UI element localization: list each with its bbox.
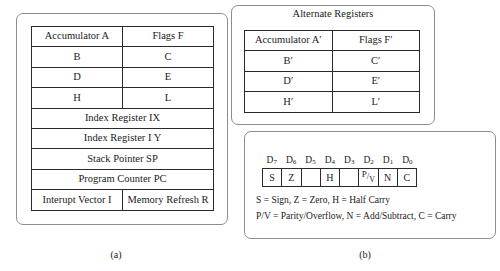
table-row: H L	[32, 88, 214, 108]
parity-overflow-denominator: V	[369, 175, 375, 184]
bit-label-d6: D6	[281, 156, 300, 166]
flag-cell-carry: C	[397, 169, 416, 187]
bit-label-d1-index: 1	[390, 158, 394, 166]
register-cell-flags-f: Flags F	[123, 27, 214, 47]
flag-bit-table-body: S Z H P/V N C	[263, 169, 417, 187]
table-row: Stack Pointer SP	[32, 149, 214, 169]
bit-label-d4-index: 4	[332, 158, 336, 166]
register-cell-accumulator-a: Accumulator A	[32, 27, 123, 47]
flag-cell-unused-d5	[301, 169, 320, 187]
bit-label-d1-letter: D	[383, 155, 390, 165]
bit-label-d2-index: 2	[370, 158, 374, 166]
register-cell-l-prime: L′	[332, 92, 420, 112]
bit-label-d3: D3	[340, 156, 359, 166]
caption-b: (b)	[345, 250, 385, 260]
table-row: Accumulator A′ Flags F′	[245, 31, 420, 51]
bit-label-d7-index: 7	[273, 158, 277, 166]
register-cell-e: E	[123, 67, 214, 87]
flag-cell-add-subtract: N	[378, 169, 397, 187]
register-cell-index-register-ix: Index Register IX	[32, 108, 214, 128]
bit-label-d0-letter: D	[402, 155, 409, 165]
table-row: S Z H P/V N C	[263, 169, 417, 187]
main-register-table-body: Accumulator A Flags F B C D E H L Index …	[32, 27, 214, 211]
bit-label-d2: D2	[359, 156, 378, 166]
alternate-register-table: Accumulator A′ Flags F′ B′ C′ D′ E′ H′ L…	[244, 30, 420, 113]
register-cell-c-prime: C′	[332, 51, 420, 71]
register-cell-flags-f-prime: Flags F′	[332, 31, 420, 51]
parity-overflow-glyph: P/V	[362, 170, 375, 184]
bit-label-d6-index: 6	[293, 158, 297, 166]
bit-label-d0: D0	[398, 156, 417, 166]
flag-legend-line-1: S = Sign, Z = Zero, H = Half Carry	[256, 196, 390, 206]
flag-cell-unused-d3	[340, 169, 359, 187]
bit-label-d6-letter: D	[286, 155, 293, 165]
register-cell-b-prime: B′	[245, 51, 333, 71]
register-cell-d: D	[32, 67, 123, 87]
register-cell-accumulator-a-prime: Accumulator A′	[245, 31, 333, 51]
flag-cell-parity-overflow: P/V	[359, 169, 378, 187]
bit-label-d1: D1	[378, 156, 397, 166]
register-cell-index-register-iy: Index Register I Y	[32, 128, 214, 148]
table-row: D′ E′	[245, 71, 420, 91]
table-row: B C	[32, 47, 214, 67]
table-row: Index Register I Y	[32, 128, 214, 148]
register-cell-program-counter-pc: Program Counter PC	[32, 169, 214, 189]
flag-legend-line-2: P/V = Parity/Overflow, N = Add/Subtract,…	[256, 212, 457, 222]
alternate-register-table-body: Accumulator A′ Flags F′ B′ C′ D′ E′ H′ L…	[245, 31, 420, 113]
bit-label-d0-index: 0	[409, 158, 413, 166]
flag-register-diagram: D7 D6 D5 D4 D3 D2 D1 D0 S Z H P/V N C	[262, 156, 417, 187]
alternate-registers-title: Alternate Registers	[231, 9, 435, 20]
register-cell-h-prime: H′	[245, 92, 333, 112]
table-row: H′ L′	[245, 92, 420, 112]
register-cell-stack-pointer-sp: Stack Pointer SP	[32, 149, 214, 169]
bit-label-d5-index: 5	[312, 158, 316, 166]
register-cell-e-prime: E′	[332, 71, 420, 91]
register-cell-c: C	[123, 47, 214, 67]
table-row: D E	[32, 67, 214, 87]
bit-label-d4: D4	[320, 156, 339, 166]
register-cell-l: L	[123, 88, 214, 108]
bit-label-d3-index: 3	[351, 158, 355, 166]
register-cell-memory-refresh-r: Memory Refresh R	[123, 190, 214, 210]
bit-label-d7: D7	[262, 156, 281, 166]
bit-label-d3-letter: D	[344, 155, 351, 165]
caption-a: (a)	[96, 250, 136, 260]
flag-bit-table: S Z H P/V N C	[262, 168, 417, 187]
table-row: Interupt Vector I Memory Refresh R	[32, 190, 214, 210]
bit-label-d4-letter: D	[325, 155, 332, 165]
bit-label-row: D7 D6 D5 D4 D3 D2 D1 D0	[262, 156, 417, 166]
bit-label-d5: D5	[301, 156, 320, 166]
table-row: Program Counter PC	[32, 169, 214, 189]
table-row: Accumulator A Flags F	[32, 27, 214, 47]
table-row: B′ C′	[245, 51, 420, 71]
main-register-table: Accumulator A Flags F B C D E H L Index …	[31, 26, 214, 211]
register-cell-d-prime: D′	[245, 71, 333, 91]
register-cell-h: H	[32, 88, 123, 108]
table-row: Index Register IX	[32, 108, 214, 128]
register-cell-interrupt-vector-i: Interupt Vector I	[32, 190, 123, 210]
flag-cell-sign: S	[263, 169, 282, 187]
flag-cell-zero: Z	[282, 169, 301, 187]
register-cell-b: B	[32, 47, 123, 67]
flag-cell-half-carry: H	[320, 169, 339, 187]
